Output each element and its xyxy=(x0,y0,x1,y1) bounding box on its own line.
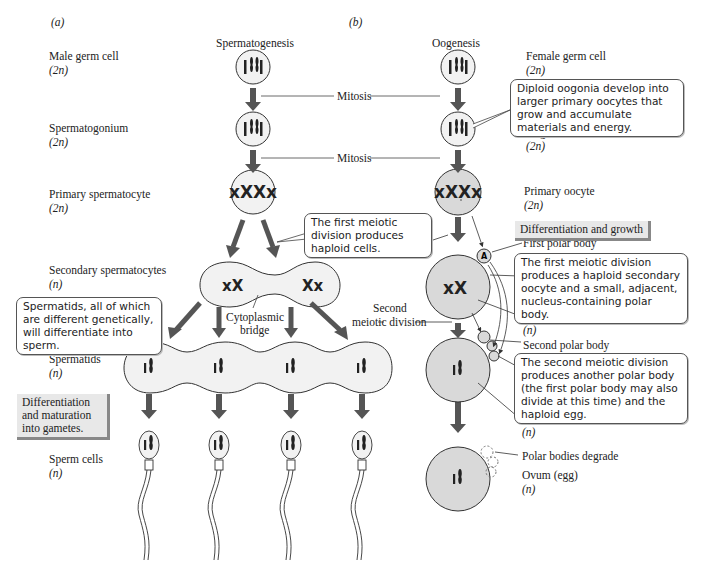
male-germ-cell xyxy=(236,50,270,84)
secondary-oocyte-cell: xX xyxy=(426,255,490,319)
svg-text:xX: xX xyxy=(222,277,244,295)
callout-second-meiotic: The second meiotic division produces ano… xyxy=(514,353,688,424)
label-secondary-spermatocytes: Secondary spermatocytes xyxy=(49,264,166,277)
label-spermatogonium: Spermatogonium xyxy=(49,122,128,135)
spermatogonium-cell xyxy=(236,112,270,146)
label-differentiation-growth: Differentiation and growth xyxy=(515,221,651,241)
sperm-cells xyxy=(138,431,372,560)
label-primary-oocyte: Primary oocyte xyxy=(524,185,595,198)
spermatogenesis-title: Spermatogenesis xyxy=(216,37,294,50)
label-second-polar-body: Second polar body xyxy=(523,339,609,352)
ploidy-primary-spermatocyte: (2n) xyxy=(49,202,68,215)
svg-text:Xx: Xx xyxy=(302,277,324,295)
ploidy-secondary-spermatocytes: (n) xyxy=(49,278,62,291)
label-ovum: Ovum (egg) xyxy=(522,469,578,482)
primary-spermatocyte-cell xyxy=(229,170,277,214)
ploidy-ootid: (n) xyxy=(522,426,535,439)
ploidy-ovum: (n) xyxy=(522,483,535,496)
spermatids-cell-chain xyxy=(124,342,392,393)
ovum-cell xyxy=(426,446,498,511)
label-primary-spermatocyte: Primary spermatocyte xyxy=(49,188,150,201)
first-polar-body: A xyxy=(477,249,491,263)
panel-a-label: (a) xyxy=(51,16,64,29)
female-germ-cell xyxy=(441,50,475,84)
ploidy-male-germ-cell: (2n) xyxy=(49,64,68,77)
ploidy-secondary-oocyte: (n) xyxy=(523,324,536,337)
oogenesis-title: Oogenesis xyxy=(432,37,480,50)
second-meiotic-label-1: Second xyxy=(373,302,407,315)
ploidy-sperm-cells: (n) xyxy=(49,467,62,480)
second-meiotic-label-2: meiotic division xyxy=(352,316,426,329)
secondary-spermatocytes-cell: xX Xx xyxy=(200,262,340,307)
callout-first-meiotic-oocyte: The first meiotic division produces a ha… xyxy=(514,253,688,324)
ploidy-female-germ-cell: (2n) xyxy=(526,64,545,77)
label-sperm-cells: Sperm cells xyxy=(49,453,103,466)
cytoplasmic-bridge-label-2: bridge xyxy=(240,324,269,337)
callout-spermatids: Spermatids, all of which are different g… xyxy=(16,297,162,355)
panel-b-label: (b) xyxy=(349,16,362,29)
ploidy-spermatids: (n) xyxy=(49,367,62,380)
cytoplasmic-bridge-label-1: Cytoplasmic xyxy=(226,311,284,324)
ootid-cell xyxy=(426,338,490,402)
mitosis-label-1: Mitosis xyxy=(337,90,372,103)
callout-oogonia: Diploid oogonia develop into larger prim… xyxy=(510,79,684,137)
svg-text:A: A xyxy=(481,252,488,261)
ploidy-spermatogonium: (2n) xyxy=(49,136,68,149)
oogonium-cell xyxy=(441,112,475,146)
ploidy-oogonium: (2n) xyxy=(526,140,545,153)
label-differentiation-maturation: Differentiation and maturation into game… xyxy=(17,394,110,440)
label-female-germ-cell: Female germ cell xyxy=(526,50,606,63)
svg-text:xX: xX xyxy=(443,278,467,298)
label-male-germ-cell: Male germ cell xyxy=(49,50,119,63)
ploidy-primary-oocyte: (2n) xyxy=(524,199,543,212)
primary-oocyte-cell xyxy=(434,169,482,215)
mitosis-label-2: Mitosis xyxy=(337,152,372,165)
callout-first-meiotic: The first meiotic division produces hapl… xyxy=(304,213,432,258)
label-polar-bodies-degrade: Polar bodies degrade xyxy=(522,450,618,463)
